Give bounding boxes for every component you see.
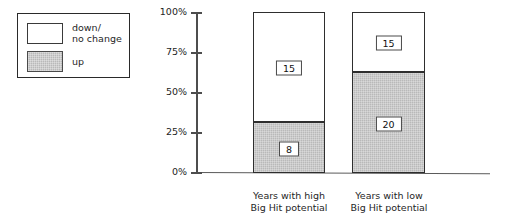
y-tick-label-75: 75% — [147, 47, 187, 57]
x-axis-category-label-1: Years with low Big Hit potential — [329, 190, 449, 213]
bar-years-high-big-hit-potential[interactable]: 15 8 — [253, 12, 325, 173]
y-tick-mark-100 — [191, 12, 202, 14]
y-tick-mark-25 — [191, 132, 202, 134]
bar-segment-down-no-change[interactable]: 15 — [352, 12, 425, 72]
y-tick-mark-50 — [191, 92, 202, 94]
y-tick-mark-0 — [191, 172, 202, 174]
y-tick-mark-75 — [191, 52, 202, 54]
bar-segment-up[interactable]: 8 — [253, 122, 325, 173]
y-tick-label-100: 100% — [147, 7, 187, 17]
bar-years-low-big-hit-potential[interactable]: 15 20 — [352, 12, 425, 173]
y-tick-label-0: 0% — [147, 167, 187, 177]
bar-segment-label-down-no-change: 15 — [375, 36, 401, 51]
bar-segment-down-no-change[interactable]: 15 — [253, 12, 325, 122]
x-axis-baseline — [195, 172, 490, 175]
bar-segment-label-up: 20 — [375, 117, 401, 132]
bar-segment-up[interactable]: 20 — [352, 72, 425, 173]
y-tick-label-50: 50% — [147, 87, 187, 97]
y-tick-label-25: 25% — [147, 127, 187, 137]
plot-area: 100% 75% 50% 25% 0% 15 8 15 — [0, 0, 505, 220]
bar-segment-label-up: 8 — [279, 142, 299, 157]
stacked-bar-chart: down/ no change up 100% 75% 50% 25% 0% — [0, 0, 505, 220]
bar-segment-label-down-no-change: 15 — [276, 61, 302, 76]
